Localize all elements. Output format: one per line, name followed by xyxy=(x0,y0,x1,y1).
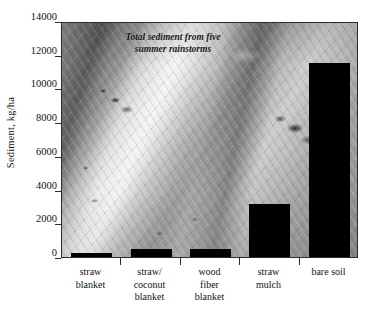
x-axis-tick-mark xyxy=(180,258,181,265)
y-axis-tick-label: 8000 xyxy=(18,112,57,123)
x-axis-category-label-line: bare soil xyxy=(299,266,358,279)
x-axis-category-labels: strawblanketstraw/coconutblanketwoodfibe… xyxy=(61,266,358,309)
x-axis-category-label-line: coconut xyxy=(120,279,179,292)
chart-annotation-line: summer rainstorms xyxy=(78,43,268,55)
y-axis-tick-label: 14000 xyxy=(18,11,57,22)
x-axis-category-label: straw/coconutblanket xyxy=(120,266,179,304)
chart-annotation: Total sediment from fivesummer rainstorm… xyxy=(78,31,268,55)
x-axis-category-label: strawblanket xyxy=(61,266,120,291)
x-axis-category-label-line: straw xyxy=(239,266,298,279)
bar xyxy=(131,249,172,257)
x-axis-category-label-line: fiber xyxy=(180,279,239,292)
bar xyxy=(249,204,290,257)
x-axis-category-label: strawmulch xyxy=(239,266,298,291)
plot-area: Total sediment from fivesummer rainstorm… xyxy=(61,22,358,258)
y-axis-title-text: Sediment, kg/ha xyxy=(6,97,17,168)
chart-annotation-line: Total sediment from five xyxy=(78,31,268,43)
bars-layer xyxy=(62,23,357,257)
x-axis-category-label-line: mulch xyxy=(239,279,298,292)
x-axis-category-label-line: blanket xyxy=(120,291,179,304)
sediment-bar-chart-figure: Sediment, kg/ha 020004000600080001000012… xyxy=(0,0,372,309)
bar xyxy=(309,63,350,257)
bar xyxy=(71,253,112,257)
x-axis-category-label-line: straw xyxy=(61,266,120,279)
y-axis-tick-label: 4000 xyxy=(18,179,57,190)
x-axis-category-label: woodfiberblanket xyxy=(180,266,239,304)
y-axis-tick-label: 10000 xyxy=(18,78,57,89)
x-axis-category-label-line: straw/ xyxy=(120,266,179,279)
y-axis-tick-label: 2000 xyxy=(18,213,57,224)
x-axis-category-label-line: blanket xyxy=(61,279,120,292)
x-axis-category-label: bare soil xyxy=(299,266,358,279)
x-axis-tick-mark xyxy=(120,258,121,265)
x-axis-category-label-line: blanket xyxy=(180,291,239,304)
y-axis-tick-label: 12000 xyxy=(18,44,57,55)
x-axis-ticks xyxy=(61,258,358,265)
y-axis-tick-labels: 02000400060008000100001200014000 xyxy=(18,16,57,260)
x-axis-category-label-line: wood xyxy=(180,266,239,279)
y-axis-tick-label: 6000 xyxy=(18,145,57,156)
y-axis-tick-label: 0 xyxy=(18,247,57,258)
x-axis-tick-mark xyxy=(239,258,240,265)
bar xyxy=(190,249,231,257)
x-axis-tick-mark xyxy=(299,258,300,265)
